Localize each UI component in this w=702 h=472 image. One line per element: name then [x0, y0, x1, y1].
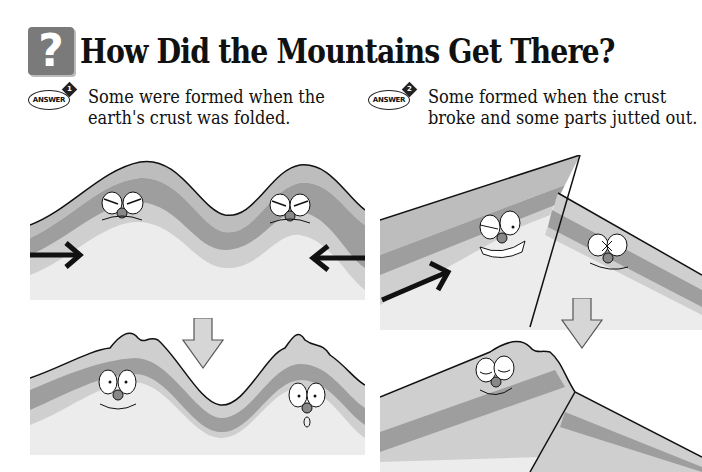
answer-2-text: Some formed when the crust broke and som…	[428, 86, 697, 128]
answer-badge-1: ANSWER 1	[28, 88, 78, 110]
answer-1: ANSWER 1 Some were formed when the earth…	[28, 86, 351, 128]
folding-before-illustration	[30, 150, 365, 305]
faulting-after-illustration	[380, 332, 702, 472]
folding-after-illustration	[30, 330, 365, 455]
faulting-before-illustration	[380, 155, 702, 330]
answer-badge-2: ANSWER 2	[368, 88, 418, 110]
page-header: ? How Did the Mountains Get There?	[28, 26, 701, 76]
badge-number-icon: 1	[62, 82, 78, 98]
page-title: How Did the Mountains Get There?	[80, 32, 614, 71]
question-mark-icon: ?	[28, 27, 74, 75]
badge-number-icon: 2	[402, 82, 418, 98]
answer-1-text: Some were formed when the earth's crust …	[88, 86, 325, 128]
answer-2: ANSWER 2 Some formed when the crust brok…	[368, 86, 702, 128]
